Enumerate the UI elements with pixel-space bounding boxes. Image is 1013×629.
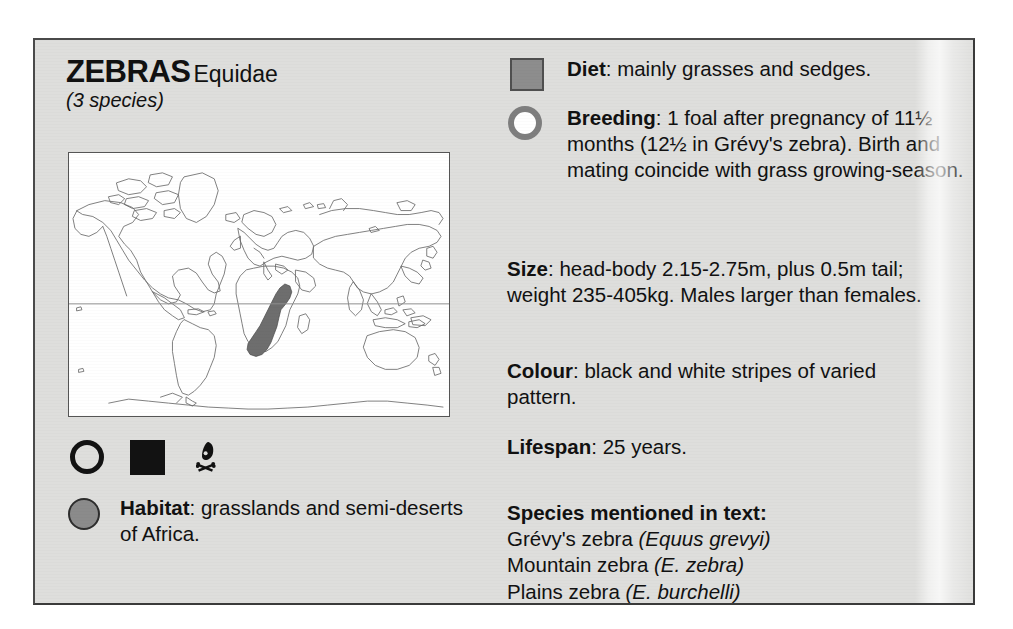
diet-lead: Diet [567, 57, 606, 80]
species-scientific-name: (E. burchelli) [626, 580, 741, 603]
species-scientific-name: (E. zebra) [654, 553, 744, 576]
world-distribution-map [68, 152, 450, 417]
page-title: ZEBRASEquidae [66, 56, 486, 87]
fact-size: Size: head-body 2.15-2.75m, plus 0.5m ta… [507, 256, 937, 308]
list-item: Grévy's zebra (Equus grevyi) [507, 526, 937, 552]
grey-ring-icon [508, 106, 542, 140]
species-list-block: Species mentioned in text: Grévy's zebra… [507, 500, 937, 605]
fact-lifespan: Lifespan: 25 years. [507, 434, 937, 460]
lifespan-body: Lifespan: 25 years. [507, 434, 937, 460]
fact-colour: Colour: black and white stripes of varie… [507, 358, 937, 410]
diet-text: : mainly grasses and sedges. [606, 57, 872, 80]
lifespan-text: : 25 years. [591, 435, 687, 458]
diet-body: Diet: mainly grasses and sedges. [567, 56, 975, 82]
species-scientific-name: (Equus grevyi) [639, 527, 771, 550]
size-body: Size: head-body 2.15-2.75m, plus 0.5m ta… [507, 256, 937, 308]
species-common-name: Plains zebra [507, 580, 626, 603]
filled-square-icon [130, 440, 165, 475]
habitat-text: Habitat: grasslands and semi-deserts of … [120, 495, 466, 547]
list-item: Plains zebra (E. burchelli) [507, 579, 937, 605]
colour-lead: Colour [507, 359, 573, 382]
ring-outline-icon [70, 440, 104, 474]
species-common-name: Mountain zebra [507, 553, 654, 576]
map-ocean [69, 153, 449, 416]
icon-legend-strip [68, 440, 428, 482]
title-family: Equidae [190, 61, 277, 87]
list-item: Mountain zebra (E. zebra) [507, 552, 937, 578]
fact-panel: ZEBRASEquidae (3 species) [33, 38, 975, 605]
grey-square-icon [510, 58, 544, 91]
fact-breeding: Breeding: 1 foal after pregnancy of 11½ … [507, 105, 975, 184]
species-count-subtitle: (3 species) [66, 89, 486, 112]
colour-body: Colour: black and white stripes of varie… [507, 358, 937, 410]
size-lead: Size [507, 257, 548, 280]
title-main: ZEBRAS [66, 54, 190, 89]
habitat-row: Habitat: grasslands and semi-deserts of … [66, 495, 466, 547]
size-text: : head-body 2.15-2.75m, plus 0.5m tail; … [507, 257, 922, 306]
skull-svg [196, 440, 218, 474]
filled-circle-icon [68, 498, 100, 530]
fact-diet: Diet: mainly grasses and sedges. [507, 56, 975, 82]
skull-and-crossbones-icon [196, 440, 218, 474]
species-common-name: Grévy's zebra [507, 527, 639, 550]
breeding-lead: Breeding [567, 106, 656, 129]
breeding-body: Breeding: 1 foal after pregnancy of 11½ … [567, 105, 975, 184]
map-svg [69, 153, 449, 416]
left-column: ZEBRASEquidae (3 species) [66, 56, 486, 112]
species-list-heading: Species mentioned in text: [507, 500, 937, 526]
lifespan-lead: Lifespan [507, 435, 591, 458]
page-canvas: ZEBRASEquidae (3 species) [0, 0, 1013, 629]
habitat-lead: Habitat [120, 496, 189, 519]
